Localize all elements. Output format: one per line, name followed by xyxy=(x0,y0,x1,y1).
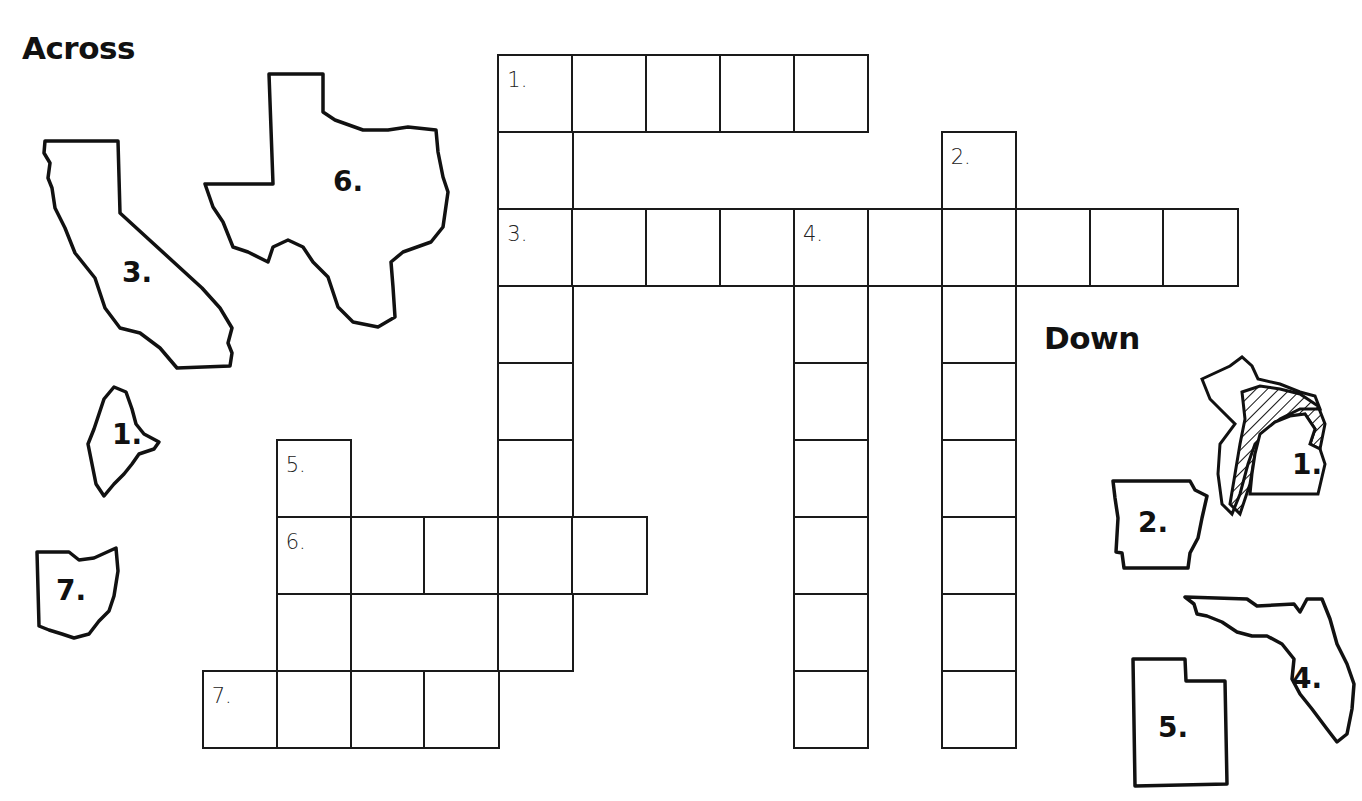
crossword-cell[interactable]: 6. xyxy=(276,516,352,596)
cell-letter-input[interactable] xyxy=(795,287,867,363)
cell-letter-input[interactable] xyxy=(573,210,645,286)
crossword-cell[interactable] xyxy=(645,54,721,134)
crossword-cell[interactable] xyxy=(793,54,869,134)
texas-clue: 6. xyxy=(203,72,453,336)
crossword-cell[interactable] xyxy=(276,670,352,750)
cell-letter-input[interactable] xyxy=(1164,210,1236,286)
crossword-cell[interactable] xyxy=(793,670,869,750)
cell-letter-input[interactable] xyxy=(1091,210,1163,286)
crossword-cell[interactable] xyxy=(793,362,869,442)
crossword-cell[interactable] xyxy=(497,516,573,596)
cell-letter-input[interactable] xyxy=(573,518,645,594)
cell-letter-input[interactable] xyxy=(499,595,571,671)
cell-letter-input[interactable] xyxy=(795,518,867,594)
texas-outline-icon xyxy=(203,72,453,332)
crossword-cell[interactable] xyxy=(276,593,352,673)
cell-letter-input[interactable] xyxy=(795,210,867,286)
crossword-cell[interactable]: 5. xyxy=(276,439,352,519)
crossword-cell[interactable] xyxy=(793,593,869,673)
crossword-cell[interactable]: 3. xyxy=(497,208,573,288)
cell-letter-input[interactable] xyxy=(573,56,645,132)
crossword-cell[interactable] xyxy=(719,208,795,288)
ohio-clue: 7. xyxy=(34,546,119,650)
cell-letter-input[interactable] xyxy=(647,210,719,286)
crossword-cell[interactable] xyxy=(793,285,869,365)
cell-letter-input[interactable] xyxy=(795,364,867,440)
cell-letter-input[interactable] xyxy=(278,595,350,671)
crossword-cell[interactable]: 1. xyxy=(497,54,573,134)
cell-letter-input[interactable] xyxy=(499,518,571,594)
michigan-clue: 1. xyxy=(1200,354,1350,523)
crossword-cell[interactable] xyxy=(941,208,1017,288)
crossword-cell[interactable] xyxy=(941,439,1017,519)
cell-letter-input[interactable] xyxy=(278,672,350,748)
cell-letter-input[interactable] xyxy=(425,672,497,748)
cell-letter-input[interactable] xyxy=(352,518,424,594)
down-heading: Down xyxy=(1044,320,1140,356)
cell-letter-input[interactable] xyxy=(943,441,1015,517)
cell-letter-input[interactable] xyxy=(943,133,1015,209)
crossword-cell[interactable] xyxy=(571,516,647,596)
crossword-cell[interactable] xyxy=(941,516,1017,596)
crossword-cell[interactable] xyxy=(423,516,499,596)
cell-letter-input[interactable] xyxy=(943,287,1015,363)
crossword-cell[interactable] xyxy=(719,54,795,134)
cell-letter-input[interactable] xyxy=(795,672,867,748)
cell-letter-input[interactable] xyxy=(795,595,867,671)
crossword-cell[interactable] xyxy=(497,439,573,519)
crossword-cell[interactable] xyxy=(497,362,573,442)
cell-letter-input[interactable] xyxy=(943,672,1015,748)
crossword-cell[interactable] xyxy=(497,131,573,211)
michigan-label: 1. xyxy=(1292,448,1322,481)
cell-letter-input[interactable] xyxy=(943,518,1015,594)
cell-letter-input[interactable] xyxy=(499,364,571,440)
cell-letter-input[interactable] xyxy=(943,210,1015,286)
cell-letter-input[interactable] xyxy=(721,210,793,286)
cell-letter-input[interactable] xyxy=(499,441,571,517)
cell-letter-input[interactable] xyxy=(943,364,1015,440)
crossword-cell[interactable] xyxy=(793,439,869,519)
cell-letter-input[interactable] xyxy=(425,518,497,594)
maine-clue: 1. xyxy=(84,384,164,508)
crossword-cell[interactable] xyxy=(350,516,426,596)
crossword-cell[interactable]: 7. xyxy=(202,670,278,750)
crossword-cell[interactable]: 2. xyxy=(941,131,1017,211)
cell-letter-input[interactable] xyxy=(943,595,1015,671)
cell-letter-input[interactable] xyxy=(647,56,719,132)
crossword-cell[interactable] xyxy=(867,208,943,288)
cell-letter-input[interactable] xyxy=(721,56,793,132)
crossword-cell[interactable] xyxy=(423,670,499,750)
crossword-cell[interactable] xyxy=(1015,208,1091,288)
florida-label: 4. xyxy=(1292,662,1322,695)
cell-letter-input[interactable] xyxy=(204,672,276,748)
crossword-cell[interactable] xyxy=(941,593,1017,673)
crossword-cell[interactable]: 4. xyxy=(793,208,869,288)
crossword-cell[interactable] xyxy=(571,54,647,134)
cell-letter-input[interactable] xyxy=(352,672,424,748)
crossword-cell[interactable] xyxy=(1089,208,1165,288)
cell-letter-input[interactable] xyxy=(499,133,571,209)
crossword-cell[interactable] xyxy=(571,208,647,288)
crossword-cell[interactable] xyxy=(793,516,869,596)
cell-letter-input[interactable] xyxy=(499,210,571,286)
crossword-cell[interactable] xyxy=(497,285,573,365)
cell-letter-input[interactable] xyxy=(795,441,867,517)
cell-letter-input[interactable] xyxy=(499,287,571,363)
cell-letter-input[interactable] xyxy=(278,518,350,594)
crossword-cell[interactable] xyxy=(645,208,721,288)
crossword-cell[interactable] xyxy=(497,593,573,673)
cell-letter-input[interactable] xyxy=(1017,210,1089,286)
cell-letter-input[interactable] xyxy=(278,441,350,517)
crossword-cell[interactable] xyxy=(941,670,1017,750)
crossword-cell[interactable] xyxy=(1162,208,1238,288)
cell-letter-input[interactable] xyxy=(869,210,941,286)
crossword-cell[interactable] xyxy=(941,362,1017,442)
ohio-label: 7. xyxy=(56,574,86,607)
cell-letter-input[interactable] xyxy=(499,56,571,132)
crossword-cell[interactable] xyxy=(350,670,426,750)
california-label: 3. xyxy=(122,256,152,289)
utah-clue: 5. xyxy=(1130,656,1230,795)
maine-label: 1. xyxy=(112,418,142,451)
cell-letter-input[interactable] xyxy=(795,56,867,132)
crossword-cell[interactable] xyxy=(941,285,1017,365)
